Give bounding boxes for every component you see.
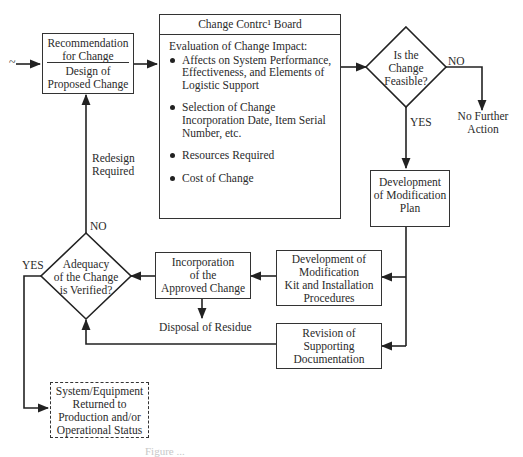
ccb-item-performance: Affects on System Performance, Effective… (169, 54, 334, 92)
returned-to-production-box: System/Equipment Returned to Production … (50, 382, 149, 438)
recommendation-section: Recommendation for Change (47, 34, 129, 63)
adequacy-no-label: NO (90, 220, 107, 233)
ccb-item-resources: Resources Required (169, 149, 334, 162)
incorporation-line: of the (156, 269, 250, 282)
entry-marker: ~ (9, 56, 16, 69)
returned-line: Operational Status (51, 424, 148, 437)
adequacy-decision: Adequacy of the Change is Verified? (46, 258, 126, 297)
recommendation-line-2: for Change (47, 50, 129, 63)
modification-plan-line: Development (371, 176, 449, 189)
modification-kit-line: Development of (277, 253, 381, 266)
returned-line: Returned to (51, 398, 148, 411)
revision-docs-line: Documentation (277, 353, 381, 366)
adequacy-line: of the Change (46, 271, 126, 284)
ccb-item-text: Affects on System Performance, (182, 54, 334, 67)
ccb-item-text: Cost of Change (182, 172, 334, 185)
ccb-item-text: Number, etc. (182, 127, 334, 140)
ccb-item-selection: Selection of Change Incorporation Date, … (169, 101, 334, 139)
modification-kit-line: Procedures (277, 292, 381, 305)
disposal-of-residue-label: Disposal of Residue (159, 321, 252, 334)
design-line-1: Design of (43, 65, 133, 78)
ccb-item-text: Selection of Change (182, 101, 334, 114)
ccb-heading: Evaluation of Change Impact: (169, 40, 334, 53)
returned-line: System/Equipment (51, 385, 148, 398)
adequacy-yes-label: YES (22, 259, 44, 272)
redesign-line: Redesign (92, 152, 135, 165)
feasibility-decision: Is the Change Feasible? (376, 49, 436, 88)
design-section: Design of Proposed Change (43, 63, 133, 91)
ccb-item-text: Logistic Support (182, 79, 334, 92)
ccb-item-text: Resources Required (182, 149, 334, 162)
incorporation-box: Incorporation of the Approved Change (155, 252, 251, 299)
modification-kit-line: Kit and Installation (277, 279, 381, 292)
revision-docs-line: Supporting (277, 340, 381, 353)
ccb-body: Evaluation of Change Impact: Affects on … (160, 35, 340, 184)
ccb-title: Change Contrc¹ Board (160, 15, 340, 35)
feasible-line: Feasible? (376, 75, 436, 88)
feasible-line: Change (376, 62, 436, 75)
no-further-action-line: No Further (450, 110, 516, 123)
figure-caption: Figure ... (145, 445, 185, 457)
change-control-board-box: Change Contrc¹ Board Evaluation of Chang… (159, 14, 341, 219)
adequacy-line: is Verified? (46, 284, 126, 297)
incorporation-line: Incorporation (156, 256, 250, 269)
adequacy-line: Adequacy (46, 258, 126, 271)
no-further-action-line: Action (450, 123, 516, 136)
modification-kit-box: Development of Modification Kit and Inst… (276, 250, 382, 306)
recommendation-design-box: Recommendation for Change Design of Prop… (42, 33, 134, 94)
no-further-action: No Further Action (450, 110, 516, 136)
modification-plan-box: Development of Modification Plan (370, 170, 450, 227)
modification-plan-line: Plan (371, 202, 449, 215)
feasible-line: Is the (376, 49, 436, 62)
ccb-item-text: Effectiveness, and Elements of (182, 66, 334, 79)
ccb-item-cost: Cost of Change (169, 172, 334, 185)
modification-kit-line: Modification (277, 266, 381, 279)
redesign-required-label: Redesign Required (92, 152, 135, 178)
modification-plan-line: of Modification (371, 189, 449, 202)
revision-docs-line: Revision of (277, 327, 381, 340)
design-line-2: Proposed Change (43, 78, 133, 91)
returned-line: Production and/or (51, 411, 148, 424)
incorporation-line: Approved Change (156, 282, 250, 295)
feasible-no-label: NO (448, 55, 465, 68)
ccb-item-text: Incorporation Date, Item Serial (182, 114, 334, 127)
feasible-yes-label: YES (410, 116, 432, 129)
recommendation-line-1: Recommendation (47, 37, 129, 50)
revision-documentation-box: Revision of Supporting Documentation (276, 323, 382, 369)
redesign-line: Required (92, 165, 135, 178)
